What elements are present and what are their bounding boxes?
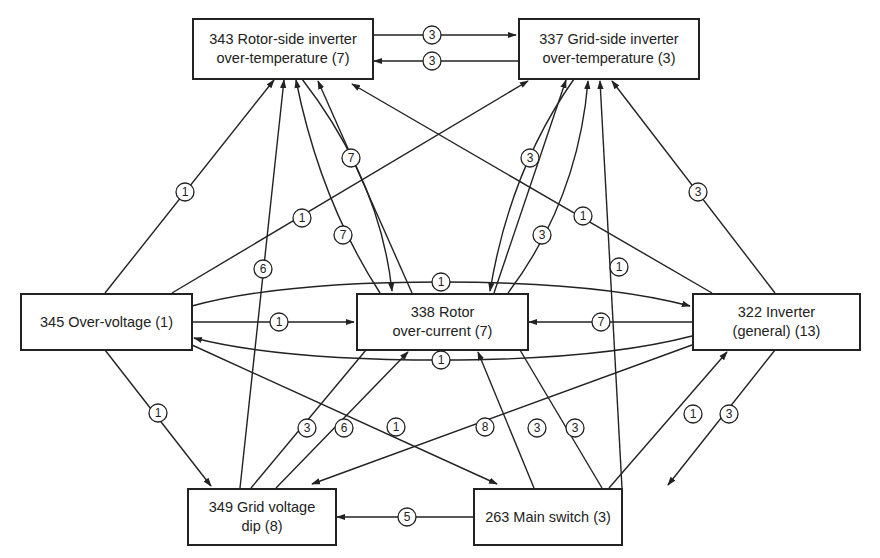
svg-text:3: 3 (726, 407, 733, 421)
node-label-line2: dip (8) (241, 517, 282, 536)
node-label-line1: 345 Over-voltage (1) (40, 313, 173, 332)
svg-text:6: 6 (341, 421, 348, 435)
svg-text:1: 1 (182, 185, 189, 199)
edge-338-343 (296, 80, 380, 293)
svg-text:1: 1 (580, 209, 587, 223)
svg-text:8: 8 (482, 420, 489, 434)
svg-text:3: 3 (429, 28, 436, 42)
edge-345-263 (192, 345, 497, 484)
svg-text:6: 6 (260, 262, 267, 276)
svg-text:3: 3 (539, 228, 546, 242)
svg-text:7: 7 (340, 228, 347, 242)
svg-text:3: 3 (534, 421, 541, 435)
node-label-line2: over-current (7) (393, 322, 493, 341)
node-label-line2: over-temperature (3) (543, 49, 676, 68)
node-343-rotor-side-inverter-over-temperature: 343 Rotor-side inverter over-temperature… (192, 18, 374, 80)
svg-text:3: 3 (527, 151, 534, 165)
svg-text:1: 1 (155, 406, 162, 420)
node-label-line2: (general) (13) (733, 322, 821, 341)
edge-labels: 3 3 1 1 6 7 7 1 3 3 1 3 1 1 1 7 1 1 8 3 … (149, 26, 738, 526)
svg-text:3: 3 (429, 54, 436, 68)
node-label-line1: 322 Inverter (738, 303, 815, 322)
svg-text:1: 1 (438, 353, 445, 367)
edge-337-338 (490, 79, 574, 291)
node-337-grid-side-inverter-over-temperature: 337 Grid-side inverter over-temperature … (518, 18, 700, 80)
svg-text:1: 1 (299, 211, 306, 225)
svg-text:1: 1 (690, 407, 697, 421)
node-345-over-voltage: 345 Over-voltage (1) (20, 293, 193, 351)
svg-text:3: 3 (572, 421, 579, 435)
edge-263-322 (609, 352, 727, 488)
fault-graph-edges: 3 3 1 1 6 7 7 1 3 3 1 3 1 1 1 7 1 1 8 3 … (0, 0, 880, 558)
node-label-line1: 338 Rotor (411, 303, 475, 322)
svg-text:3: 3 (304, 421, 311, 435)
svg-text:5: 5 (404, 510, 411, 524)
svg-text:1: 1 (393, 420, 400, 434)
node-349-grid-voltage-dip: 349 Grid voltage dip (8) (187, 488, 337, 546)
edge-263-337 (600, 81, 622, 488)
node-label-line2: over-temperature (7) (217, 49, 350, 68)
node-263-main-switch: 263 Main switch (3) (473, 488, 623, 546)
edge-338-263 (520, 350, 602, 488)
svg-text:1: 1 (276, 315, 283, 329)
edge-338-337-b (508, 81, 588, 293)
edge-343-338 (302, 79, 392, 291)
node-label-line1: 337 Grid-side inverter (539, 30, 678, 49)
edge-338-343-b (318, 81, 412, 293)
edge-322-349 (312, 345, 692, 484)
svg-text:1: 1 (616, 260, 623, 274)
svg-text:1: 1 (438, 275, 445, 289)
edge-345-337 (172, 81, 528, 293)
node-label-line1: 343 Rotor-side inverter (209, 30, 357, 49)
node-label-line1: 349 Grid voltage (209, 498, 315, 517)
svg-text:3: 3 (695, 185, 702, 199)
svg-text:7: 7 (598, 315, 605, 329)
node-322-inverter-general: 322 Inverter (general) (13) (692, 293, 861, 351)
node-338-rotor-over-current: 338 Rotor over-current (7) (356, 293, 529, 351)
svg-text:7: 7 (348, 151, 355, 165)
node-label-line1: 263 Main switch (3) (485, 508, 611, 527)
edge-349-343 (240, 80, 284, 488)
edge-322-343 (352, 84, 712, 293)
